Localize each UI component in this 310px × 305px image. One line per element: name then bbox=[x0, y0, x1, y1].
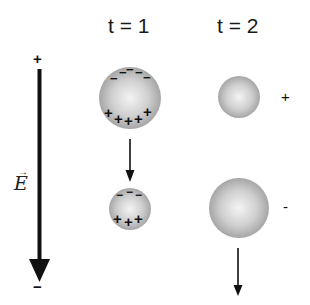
electric-field-label: → E bbox=[12, 164, 32, 194]
t2-sphere-small bbox=[218, 76, 260, 118]
field-top-plus-sign: + bbox=[33, 51, 42, 66]
t2-top-sphere-charge-sign: + bbox=[281, 89, 290, 104]
t2-sphere-large bbox=[209, 178, 269, 238]
t1-motion-arrow bbox=[126, 139, 135, 182]
t2-motion-arrow bbox=[234, 248, 243, 296]
diagram-graphics bbox=[0, 0, 310, 305]
field-bottom-minus-sign: − bbox=[33, 279, 42, 294]
electric-field-arrow bbox=[29, 69, 50, 282]
t2-bottom-sphere-charge-sign: - bbox=[283, 199, 288, 214]
